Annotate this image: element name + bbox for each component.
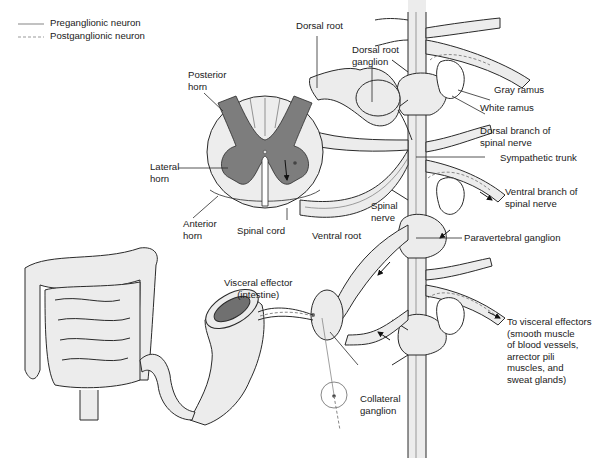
legend-postganglionic-label: Postganglionic neuron <box>50 30 145 42</box>
label-sympathetic-trunk: Sympathetic trunk <box>500 152 577 164</box>
label-dorsal-root-ganglion: Dorsal root ganglion <box>352 44 399 67</box>
intestine <box>25 248 313 425</box>
label-spinal-nerve: Spinal nerve <box>371 200 398 223</box>
diagram-artwork <box>0 0 610 458</box>
label-spinal-cord: Spinal cord <box>237 225 285 237</box>
dorsal-root <box>309 68 412 140</box>
label-white-ramus: White ramus <box>480 102 534 114</box>
label-ventral-root: Ventral root <box>312 230 361 242</box>
legend-swatches <box>18 24 44 37</box>
label-paravertebral-ganglion: Paravertebral ganglion <box>464 232 561 244</box>
collateral-ganglion <box>311 290 347 430</box>
label-anterior-horn: Anterior horn <box>183 218 217 241</box>
label-lateral-horn: Lateral horn <box>150 161 179 184</box>
label-dorsal-root: Dorsal root <box>296 20 343 32</box>
spinal-cord <box>207 96 323 208</box>
label-collateral-ganglion: Collateral ganglion <box>360 393 401 416</box>
legend-preganglionic-label: Preganglionic neuron <box>50 17 141 29</box>
sympathetic-nervous-system-diagram: Preganglionic neuron Postganglionic neur… <box>0 0 610 458</box>
label-posterior-horn: Posterior horn <box>188 69 226 92</box>
label-to-visceral-effectors: To visceral effectors (smooth muscle of … <box>507 316 592 385</box>
label-gray-ramus: Gray ramus <box>494 84 544 96</box>
label-dorsal-branch: Dorsal branch of spinal nerve <box>480 125 550 148</box>
label-ventral-branch: Ventral branch of spinal nerve <box>505 186 578 209</box>
label-visceral-effector: Visceral effector (intestine) <box>224 277 292 300</box>
